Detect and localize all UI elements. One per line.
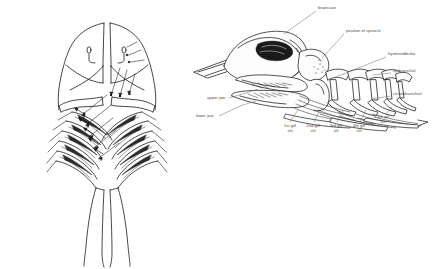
- anatomical-figure-svg: [0, 0, 443, 269]
- label-lower-jaw: lower jaw: [196, 114, 213, 119]
- label-upper-jaw: upper jaw: [207, 96, 225, 101]
- label-gill-slit-4-line2: slit: [348, 129, 370, 134]
- label-gill-slit-2-line2: slit: [302, 129, 324, 134]
- label-ceratobranchial: ceratobranchial: [393, 92, 422, 97]
- pharynx-outflow-arrows: [110, 42, 144, 96]
- label-gill-slit-1: 1st gill slit: [279, 124, 301, 133]
- label-braincase: braincase: [318, 6, 336, 11]
- label-gill-slit-4: 4th gill slit: [348, 124, 370, 133]
- gill-pointer-arrows: [82, 95, 119, 160]
- label-gill-slit-3-line2: slit: [325, 129, 347, 134]
- left-panel-ventral-dissection: [47, 23, 167, 267]
- label-hyomandibular: hyomandibular: [388, 52, 415, 57]
- label-epibranchial: epibranchial: [393, 69, 416, 74]
- left-gill-arches: [47, 112, 112, 188]
- label-gill-slit-2: 2nd gill slit: [302, 124, 324, 133]
- label-gill-slit-5: 5th gill slit: [372, 115, 394, 124]
- label-gill-slit-5-line2: slit: [372, 120, 394, 125]
- figure-canvas: braincase position of spiracle hyomandib…: [0, 0, 443, 269]
- label-gill-slit-1-line2: slit: [279, 129, 301, 134]
- right-gill-arches: [102, 112, 167, 188]
- label-gill-slit-3: 3rd gill slit: [325, 124, 347, 133]
- label-position-of-spiracle: position of spiracle: [346, 29, 381, 34]
